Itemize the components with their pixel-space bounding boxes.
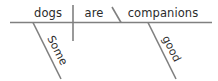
linking-verb-complement-divider (112, 7, 121, 23)
diagram-canvas: dogs are companions Some good (0, 0, 218, 81)
verb-word: are (85, 6, 104, 20)
modifier-word-good: good (159, 33, 183, 64)
modifier-word-some: Some (44, 33, 70, 67)
complement-word: companions (128, 6, 199, 20)
sentence-diagram: dogs are companions Some good (0, 0, 218, 81)
subject-word: dogs (34, 6, 62, 20)
